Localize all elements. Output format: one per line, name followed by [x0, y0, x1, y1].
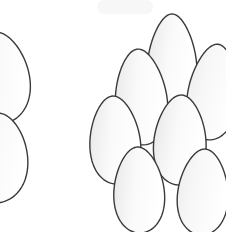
egg-cluster-drawing: Upper left cropped eggTop center eggLowe…: [0, 0, 226, 232]
top-gray-smudge: [97, 0, 153, 14]
egg-illustration-canvas: Upper left cropped eggTop center eggLowe…: [0, 0, 226, 232]
